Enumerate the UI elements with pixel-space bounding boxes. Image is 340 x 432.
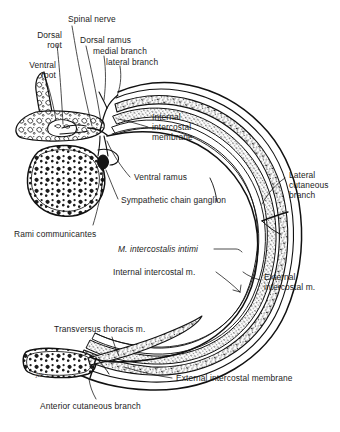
- diagram-ink: [16, 26, 302, 399]
- label-sympathetic-chain-ganglion: Sympathetic chain ganglion: [121, 195, 226, 205]
- label-lateral-cutaneous-branch: Lateral cutaneous branch: [289, 170, 329, 201]
- label-anterior-cutaneous-branch: Anterior cutaneous branch: [40, 401, 141, 411]
- label-dorsal-ramus: Dorsal ramus: [80, 35, 131, 45]
- label-m-intercostalis-intimi: M. intercostalis intimi: [118, 244, 198, 254]
- label-ventral-root: Ventral root: [4, 60, 56, 80]
- vertebra: [16, 72, 119, 216]
- label-rami-communicantes: Rami communicantes: [14, 229, 96, 239]
- label-ventral-ramus: Ventral ramus: [134, 172, 187, 182]
- label-transversus-thoracis-m: Transversus thoracis m.: [54, 324, 145, 334]
- label-internal-intercostal-membrane: Internal intercostal membrane: [152, 112, 193, 143]
- label-external-intercostal-m: External intercostal m.: [264, 272, 315, 292]
- artist-signature: jcb: [36, 372, 43, 378]
- sternum: [23, 348, 96, 377]
- label-dorsal-root: Dorsal root: [10, 30, 62, 50]
- label-external-intercostal-membrane: External intercostal membrane: [176, 373, 292, 383]
- label-spinal-nerve: Spinal nerve: [68, 14, 116, 24]
- label-lateral-branch: lateral branch: [106, 57, 158, 67]
- label-internal-intercostal-m: Internal intercostal m.: [113, 267, 195, 277]
- label-medial-branch: medial branch: [93, 46, 147, 56]
